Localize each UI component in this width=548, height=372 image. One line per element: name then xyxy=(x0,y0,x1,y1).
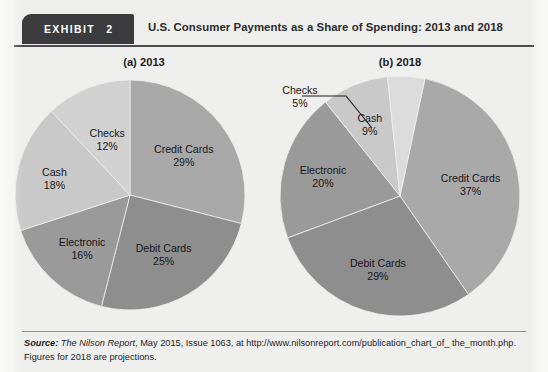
slice-label: Electronic xyxy=(59,236,106,248)
slice-value: 5% xyxy=(292,97,308,109)
slice-label: Debit Cards xyxy=(136,242,192,254)
exhibit-badge-number: 2 xyxy=(106,24,112,35)
source-citation-line1: , May 2015, Issue 1063, at http://www.ni… xyxy=(135,338,449,348)
slice-label: Cash xyxy=(357,112,382,124)
slice-value: 29% xyxy=(173,156,195,168)
pie-chart-2013-svg: Credit Cards29%Debit Cards25%Electronic1… xyxy=(20,50,268,322)
source-divider xyxy=(22,331,526,332)
slice-value: 29% xyxy=(367,270,389,282)
slice-value: 12% xyxy=(97,140,119,152)
slice-value: 20% xyxy=(312,177,334,189)
slice-value: 16% xyxy=(71,249,93,261)
source-note: Source: The Nilson Report, May 2015, Iss… xyxy=(24,337,524,364)
slice-label: Credit Cards xyxy=(441,172,500,184)
source-publication: The Nilson Report xyxy=(61,338,135,348)
pie-chart-2018-svg: Credit Cards37%Debit Cards29%Electronic2… xyxy=(272,50,528,322)
slice-value: 9% xyxy=(362,125,378,137)
chart-panel-2013: (a) 2013 Credit Cards29%Debit Cards25%El… xyxy=(20,50,268,322)
pie-chart-2013: Credit Cards29%Debit Cards25%Electronic1… xyxy=(20,50,268,322)
charts-container: (a) 2013 Credit Cards29%Debit Cards25%El… xyxy=(14,50,534,322)
slice-label: Credit Cards xyxy=(154,143,213,155)
slice-label: Checks xyxy=(282,84,317,96)
slice-label: Electronic xyxy=(300,164,347,176)
exhibit-figure: EXHIBIT 2 U.S. Consumer Payments as a Sh… xyxy=(0,0,548,372)
exhibit-title: U.S. Consumer Payments as a Share of Spe… xyxy=(148,21,503,33)
exhibit-header: EXHIBIT 2 U.S. Consumer Payments as a Sh… xyxy=(14,14,534,46)
slice-label: Debit Cards xyxy=(350,257,406,269)
chart-panel-2018: (b) 2018 Credit Cards37%Debit Cards29%El… xyxy=(272,50,528,322)
exhibit-badge-word: EXHIBIT xyxy=(44,24,95,35)
header-divider xyxy=(14,45,534,47)
slice-value: 25% xyxy=(153,255,175,267)
slice-label: Checks xyxy=(90,127,125,139)
pie-chart-2018: Credit Cards37%Debit Cards29%Electronic2… xyxy=(272,50,528,322)
source-label: Source: xyxy=(24,338,58,348)
slice-value: 18% xyxy=(44,179,66,191)
slice-value: 37% xyxy=(460,185,482,197)
slice-label: Cash xyxy=(42,166,67,178)
exhibit-badge: EXHIBIT 2 xyxy=(22,14,134,44)
